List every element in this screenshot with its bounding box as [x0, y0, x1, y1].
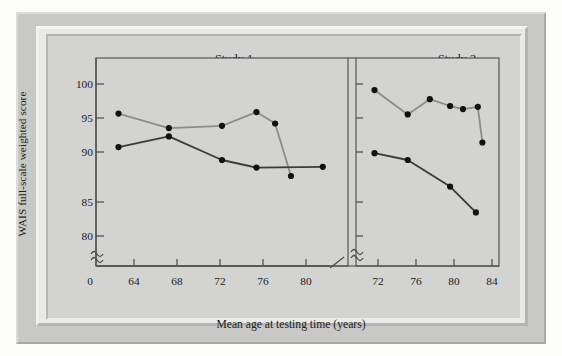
plot-frame	[96, 58, 499, 266]
data-point-marker	[460, 106, 466, 112]
data-point-marker	[427, 96, 433, 102]
chart-area: WAIS full-scale weighted score Mean age …	[0, 0, 562, 356]
data-point-marker	[272, 120, 278, 126]
data-point-marker	[320, 164, 326, 170]
data-point-marker	[473, 209, 479, 215]
data-point-marker	[447, 184, 453, 190]
data-point-marker	[166, 133, 172, 139]
data-point-marker	[371, 87, 377, 93]
data-point-marker	[447, 103, 453, 109]
data-point-marker	[253, 109, 259, 115]
data-point-marker	[166, 125, 172, 131]
data-point-marker	[371, 150, 377, 156]
data-point-marker	[115, 144, 121, 150]
data-point-marker	[475, 104, 481, 110]
data-point-marker	[405, 111, 411, 117]
data-point-marker	[479, 139, 485, 145]
data-point-marker	[405, 157, 411, 163]
data-point-marker	[219, 157, 225, 163]
data-point-marker	[219, 123, 225, 129]
data-point-marker	[253, 165, 259, 171]
figure-page: WAIS full-scale weighted score Mean age …	[0, 0, 562, 356]
data-point-marker	[288, 173, 294, 179]
data-point-marker	[115, 111, 121, 117]
plot-svg	[0, 0, 562, 356]
